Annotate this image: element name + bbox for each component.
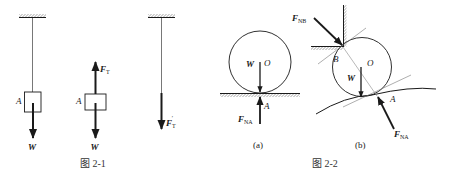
contact-label-a: A <box>389 94 396 104</box>
center-label-o: O <box>264 58 271 68</box>
contact-label-b: B <box>333 54 339 64</box>
panel-label-b: (b) <box>355 140 366 150</box>
tension-reaction-label: FT′ <box>165 115 176 129</box>
contact-label-a: A <box>263 101 270 111</box>
figure-2-2: W O A FNA (a) <box>220 5 436 169</box>
weight-label: W <box>246 59 255 69</box>
normal-force-b-label: FNB <box>291 13 306 24</box>
normal-force-label: FNA <box>237 114 253 125</box>
ground-hatch <box>220 94 300 97</box>
fig22-panel-b: FNB B O W A FNA (b) <box>291 5 436 150</box>
weight-label: W <box>347 73 356 83</box>
tension-label: FT <box>99 64 110 75</box>
normal-force-a-label: FNA <box>393 129 409 140</box>
weight-label: W <box>91 142 100 152</box>
ceiling-hatch <box>19 14 46 17</box>
line-b-to-a <box>343 47 377 96</box>
figure-2-2-caption: 图 2-2 <box>312 158 338 169</box>
center-label-o: O <box>367 58 374 68</box>
panel-label-a: (a) <box>253 140 263 150</box>
point-label-a: A <box>15 96 22 106</box>
fig21-panel-1: A W <box>15 14 46 152</box>
fig22-panel-a: W O A FNA (a) <box>220 31 300 150</box>
curved-surface <box>316 88 436 114</box>
point-label-a: A <box>75 96 82 106</box>
fig21-panel-2: A FT W <box>75 62 110 152</box>
ceiling-hatch <box>148 14 175 17</box>
diagram-canvas: A W A FT W FT′ 图 2-1 <box>0 0 450 181</box>
normal-force-b-arrow <box>314 18 342 45</box>
figure-2-1-caption: 图 2-1 <box>80 158 106 169</box>
figure-2-1: A W A FT W FT′ 图 2-1 <box>15 14 176 169</box>
weight-label: W <box>28 142 37 152</box>
fig21-panel-3: FT′ <box>148 14 176 129</box>
